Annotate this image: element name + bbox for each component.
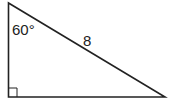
angle-label: 60° — [12, 21, 35, 38]
triangle — [9, 3, 166, 97]
right-angle-marker — [9, 88, 18, 97]
hypotenuse-label: 8 — [83, 32, 91, 49]
triangle-diagram: 60° 8 — [0, 0, 172, 106]
